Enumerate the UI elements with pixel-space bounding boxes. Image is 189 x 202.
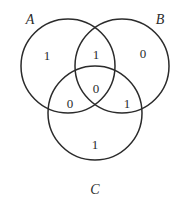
region-value-a-and-b-and-c: 0 <box>93 82 100 95</box>
set-label-c: C <box>90 183 99 197</box>
region-value-a-and-b: 1 <box>93 48 100 61</box>
set-label-b: B <box>156 13 165 27</box>
region-value-a-only: 1 <box>44 49 51 62</box>
region-value-a-and-c: 0 <box>67 97 74 110</box>
set-label-a: A <box>26 13 35 27</box>
venn-diagram: A B C 1 1 0 0 0 1 1 <box>0 0 189 202</box>
region-value-b-and-c: 1 <box>124 97 131 110</box>
region-value-b-only: 0 <box>140 47 147 60</box>
region-value-c-only: 1 <box>92 138 99 151</box>
venn-circles-group <box>0 0 189 202</box>
